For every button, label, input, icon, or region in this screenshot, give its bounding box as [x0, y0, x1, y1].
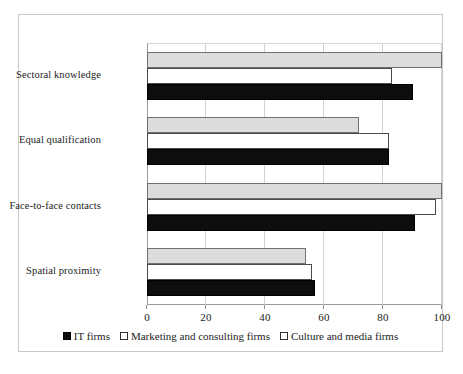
category-label: Sectoral knowledge	[16, 69, 101, 80]
bar	[147, 117, 359, 133]
x-axis-tick-label: 0	[127, 311, 167, 323]
filled-square-icon	[63, 332, 71, 340]
legend-item: Culture and media firms	[280, 330, 398, 342]
gridline	[441, 43, 442, 305]
bar	[147, 183, 442, 199]
legend-item: IT firms	[63, 330, 110, 342]
bar	[147, 199, 436, 215]
x-axis-tick	[441, 305, 442, 309]
x-axis-tick-label: 20	[186, 311, 226, 323]
x-axis-tick	[382, 305, 383, 309]
x-axis-tick-label: 80	[363, 311, 403, 323]
x-axis-tick	[323, 305, 324, 309]
bar	[147, 248, 306, 264]
x-axis-tick	[146, 305, 147, 309]
x-axis-tick	[205, 305, 206, 309]
bar	[147, 52, 442, 68]
x-axis-tick-label: 100	[422, 311, 462, 323]
x-axis-tick-label: 40	[245, 311, 285, 323]
chart-figure: 020406080100 Sectoral knowledgeEqual qua…	[0, 0, 463, 374]
legend-label: IT firms	[74, 330, 110, 342]
legend-item: Marketing and consulting firms	[120, 330, 270, 342]
bar	[147, 133, 389, 149]
bar	[147, 68, 392, 84]
bar	[147, 264, 312, 280]
chart-legend: IT firmsMarketing and consulting firmsCu…	[18, 330, 443, 342]
legend-label: Culture and media firms	[291, 330, 398, 342]
open-square-icon	[120, 332, 128, 340]
category-label: Equal qualification	[19, 134, 101, 145]
figure-frame: 020406080100 Sectoral knowledgeEqual qua…	[18, 14, 443, 352]
bar	[147, 84, 413, 100]
x-axis-tick	[264, 305, 265, 309]
bar	[147, 280, 315, 296]
x-axis-tick-label: 60	[304, 311, 344, 323]
bar	[147, 149, 389, 165]
category-label: Face-to-face contacts	[9, 200, 101, 211]
category-label: Spatial proximity	[26, 265, 101, 276]
bar	[147, 215, 415, 231]
open-square-icon	[280, 332, 288, 340]
legend-label: Marketing and consulting firms	[131, 330, 270, 342]
